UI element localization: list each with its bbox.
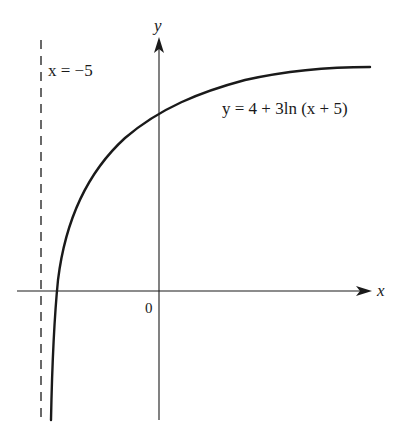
x-axis-label: x (376, 281, 385, 300)
graph: y x 0 x = −5 y = 4 + 3ln (x + 5) (0, 0, 399, 438)
y-axis-label: y (152, 16, 162, 35)
origin-label: 0 (145, 300, 153, 316)
curve-label: y = 4 + 3ln (x + 5) (222, 99, 348, 118)
log-curve (51, 67, 370, 420)
asymptote-label: x = −5 (48, 61, 93, 80)
